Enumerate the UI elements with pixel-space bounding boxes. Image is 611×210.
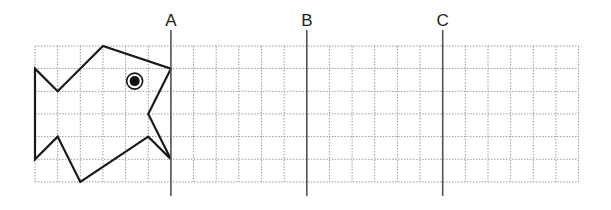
fish-figure [35, 46, 171, 182]
diagram-canvas: ABC [0, 0, 611, 210]
fish-pupil [130, 76, 140, 86]
reflection-lines: ABC [165, 11, 449, 196]
line-b-label: B [301, 11, 312, 30]
line-a-label: A [165, 11, 177, 30]
fish-outline [35, 46, 171, 182]
line-c-label: C [437, 11, 449, 30]
